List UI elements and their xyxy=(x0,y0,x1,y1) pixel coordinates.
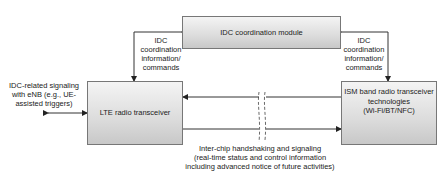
ism-label-line-2: technologies xyxy=(344,97,434,107)
edge-label-line: commands xyxy=(341,63,387,72)
edge-label-line: IDC-related signaling xyxy=(2,81,86,90)
idc-coordination-module-box: IDC coordination module xyxy=(182,16,341,49)
idc-coordination-module-label: IDC coordination module xyxy=(220,28,303,38)
ism-label-line-3: (Wi-Fi/BT/NFC) xyxy=(344,106,434,116)
interchip-break-icon xyxy=(258,92,266,142)
edge-label-line: coordination xyxy=(137,45,185,54)
ism-label-line-1: ISM band radio transceiver xyxy=(344,87,434,97)
ism-radio-transceiver-box: ISM band radio transceiver technologies … xyxy=(341,81,437,145)
edge-label-line: IDC xyxy=(341,36,387,45)
lte-radio-transceiver-label: LTE radio transceiver xyxy=(100,108,171,118)
idc-lte-edge-label: IDC coordination information/ commands xyxy=(137,36,185,72)
edge-label-line: information/ xyxy=(137,54,185,63)
lte-radio-transceiver-box: LTE radio transceiver xyxy=(87,81,183,145)
edge-label-line: including advanced notice of future acti… xyxy=(170,162,350,171)
idc-ism-edge-label: IDC coordination information/ commands xyxy=(341,36,387,72)
edge-label-line: information/ xyxy=(341,54,387,63)
edge-label-line: (real-time status and control informatio… xyxy=(170,153,350,162)
edge-label-line: commands xyxy=(137,63,185,72)
edge-label-line: assisted triggers) xyxy=(2,99,86,108)
edge-label-line: with eNB (e.g., UE- xyxy=(2,90,86,99)
edge-label-line: IDC xyxy=(137,36,185,45)
inter-chip-label: Inter-chip handshaking and signaling (re… xyxy=(170,144,350,171)
edge-label-line: coordination xyxy=(341,45,387,54)
enb-signaling-label: IDC-related signaling with eNB (e.g., UE… xyxy=(2,81,86,108)
edge-label-line: Inter-chip handshaking and signaling xyxy=(170,144,350,153)
